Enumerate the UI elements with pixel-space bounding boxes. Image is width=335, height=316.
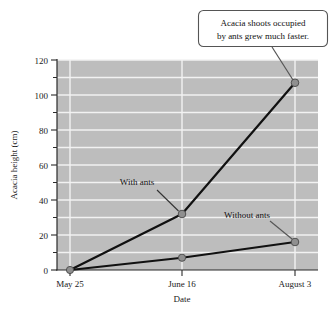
- y-tick-label-60: 60: [39, 161, 49, 171]
- data-point-without-ants-august-3: [291, 238, 299, 246]
- acacia-growth-line-chart: 120 100 80 60 40 20 0 May 25 June 16 Aug…: [0, 0, 335, 316]
- y-axis-major-ticks: [51, 60, 57, 270]
- chart-figure-root: 120 100 80 60 40 20 0 May 25 June 16 Aug…: [0, 0, 335, 316]
- y-tick-label-120: 120: [35, 56, 49, 66]
- y-axis-title: Acacia height (cm): [9, 131, 19, 200]
- y-tick-label-80: 80: [39, 126, 49, 136]
- series-annotation-without-ants: Without ants: [224, 210, 270, 220]
- x-tick-label-june-16: June 16: [168, 279, 196, 289]
- callout-box: [199, 11, 328, 47]
- data-point-with-ants-august-3: [291, 79, 299, 87]
- x-axis-title: Date: [174, 294, 191, 304]
- data-point-with-ants-june-16: [178, 210, 186, 218]
- callout-text-line-2: by ants grew much faster.: [217, 31, 309, 41]
- data-point-with-ants-may-25: [66, 266, 73, 273]
- x-tick-label-may-25: May 25: [56, 279, 84, 289]
- y-tick-label-0: 0: [44, 266, 49, 276]
- data-point-without-ants-june-16: [178, 254, 185, 261]
- y-tick-label-20: 20: [39, 231, 49, 241]
- y-tick-label-100: 100: [35, 91, 49, 101]
- series-annotation-with-ants: With ants: [120, 177, 155, 187]
- y-tick-label-40: 40: [39, 196, 49, 206]
- callout-text-line-1: Acacia shoots occupied: [221, 18, 306, 28]
- x-axis-ticks: [70, 270, 295, 276]
- x-tick-label-august-3: August 3: [279, 279, 312, 289]
